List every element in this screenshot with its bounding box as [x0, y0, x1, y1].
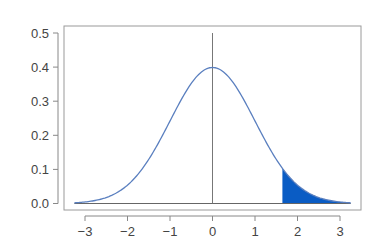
x-tick-label: −2: [120, 224, 135, 239]
x-axis: −3−2−10123: [78, 216, 344, 239]
y-tick-label: 0.5: [31, 26, 49, 41]
shaded-tail-area: [282, 168, 350, 203]
x-tick-label: 1: [251, 224, 258, 239]
y-tick-label: 0.3: [31, 94, 49, 109]
y-tick-label: 0.2: [31, 128, 49, 143]
x-tick-label: 0: [209, 224, 216, 239]
normal-distribution-chart: 0.00.10.20.30.40.5 −3−2−10123: [0, 0, 383, 251]
x-tick-label: −1: [163, 224, 178, 239]
y-tick-label: 0.1: [31, 162, 49, 177]
y-axis: 0.00.10.20.30.40.5: [31, 26, 58, 212]
x-tick-label: −3: [78, 224, 93, 239]
y-tick-label: 0.4: [31, 60, 49, 75]
x-tick-label: 2: [294, 224, 301, 239]
y-tick-label: 0.0: [31, 196, 49, 211]
x-tick-label: 3: [336, 224, 343, 239]
